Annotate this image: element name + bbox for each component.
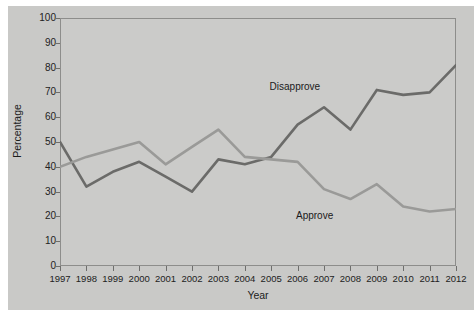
x-tick-mark [403, 266, 404, 271]
line-chart: 0102030405060708090100 19971998199920002… [0, 0, 474, 310]
x-tick-mark [60, 266, 61, 271]
series-line-disapprove [60, 65, 456, 191]
y-tick-label: 30 [30, 187, 56, 197]
x-tick-mark [271, 266, 272, 271]
x-tick-mark [166, 266, 167, 271]
y-tick-label: 100 [30, 13, 56, 23]
x-tick-mark [218, 266, 219, 271]
x-axis-tick-labels: 1997199819992000200120022003200420052006… [60, 273, 456, 287]
y-tick-label: 80 [30, 63, 56, 73]
x-tick-mark [86, 266, 87, 271]
x-tick-mark [298, 266, 299, 271]
y-tick-label: 70 [30, 87, 56, 97]
y-tick-label: 10 [30, 236, 56, 246]
x-tick-mark [430, 266, 431, 271]
y-tick-label: 20 [30, 211, 56, 221]
x-axis-title: Year [60, 289, 456, 301]
y-tick-label: 90 [30, 38, 56, 48]
x-tick-mark [113, 266, 114, 271]
x-tick-label: 2012 [436, 273, 474, 285]
y-tick-label: 50 [30, 137, 56, 147]
x-tick-mark [350, 266, 351, 271]
x-tick-mark [377, 266, 378, 271]
plot-series-layer [60, 18, 456, 266]
x-tick-mark [192, 266, 193, 271]
y-axis-title: Percentage [11, 71, 23, 191]
series-annotation-disapprove: Disapprove [270, 81, 321, 92]
x-axis-tick-marks [60, 266, 456, 272]
y-axis-tick-labels: 0102030405060708090100 [26, 18, 56, 266]
x-tick-mark [456, 266, 457, 271]
series-annotation-approve: Approve [296, 210, 333, 221]
y-tick-label: 40 [30, 162, 56, 172]
y-tick-label: 60 [30, 112, 56, 122]
x-tick-mark [245, 266, 246, 271]
x-tick-mark [324, 266, 325, 271]
y-tick-label: 0 [30, 261, 56, 271]
x-tick-mark [139, 266, 140, 271]
